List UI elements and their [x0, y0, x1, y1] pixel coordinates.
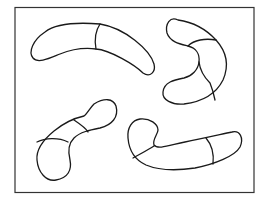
organism-bottom-right-outline: [128, 119, 242, 170]
organism-bottom-right: [128, 119, 242, 170]
organism-bottom-right-division-2: [206, 138, 213, 164]
organism-bottom-left-division-1: [37, 139, 68, 142]
figure-frame: [15, 8, 254, 193]
organism-top-left-division: [95, 24, 100, 49]
diagram-canvas: [0, 0, 269, 207]
organism-top-left: [31, 23, 154, 75]
organism-bottom-left: [37, 100, 117, 181]
organism-top-right-division-1: [188, 39, 216, 46]
organism-bottom-right-division-1: [133, 146, 154, 158]
organism-top-right-outline: [163, 19, 226, 104]
organism-bottom-left-outline: [37, 100, 117, 181]
organism-top-left-outline: [31, 23, 154, 75]
organism-bottom-left-division-2: [74, 120, 88, 132]
organism-top-right: [163, 19, 226, 104]
organism-top-right-division-2: [199, 62, 215, 100]
